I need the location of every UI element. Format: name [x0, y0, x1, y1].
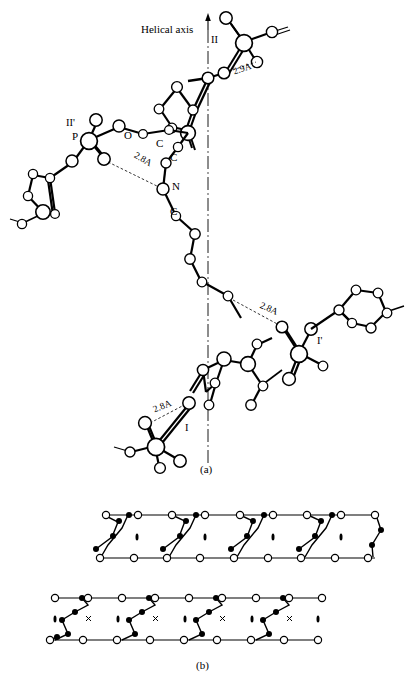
- group-label-II: II: [211, 35, 218, 46]
- group-label-II-prime: II': [66, 118, 75, 129]
- group-label-I: I: [185, 423, 189, 434]
- panel-caption-a: (a): [200, 464, 212, 475]
- panel-caption-b: (b): [196, 660, 209, 671]
- panel-a-graphic: [10, 12, 404, 474]
- panel-b-row2-axis-marks: [54, 615, 320, 622]
- panel-b-graphic: [46, 511, 384, 643]
- figure-svg: [0, 0, 414, 685]
- figure-root: Helical axis II II' I' I P O C C N C 2.9…: [0, 0, 414, 685]
- hbond-2-8-upper: [108, 162, 163, 189]
- atom-label-P: P: [72, 131, 78, 142]
- backbone-center-upper-atoms: [157, 142, 233, 300]
- group-I-prime-atoms: [276, 321, 328, 385]
- group-II-atoms: [220, 12, 278, 68]
- panel-b-row-2: [46, 594, 325, 643]
- atom-label-N: N: [172, 181, 180, 192]
- group-label-I-prime: I': [317, 336, 322, 347]
- atom-label-O: O: [124, 130, 132, 141]
- helical-axis-label: Helical axis: [141, 24, 193, 35]
- left-sugar-atoms: [17, 155, 78, 229]
- atom-label-C3: C: [170, 206, 177, 217]
- panel-b-row-1: [93, 511, 384, 561]
- atom-label-C1: C: [156, 138, 163, 149]
- atom-label-C2: C: [170, 152, 177, 163]
